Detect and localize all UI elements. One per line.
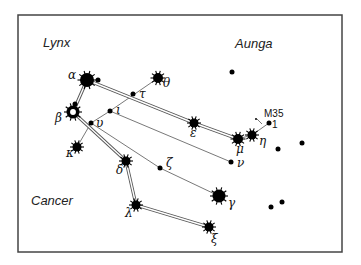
star-label-delta: δ bbox=[116, 163, 123, 177]
star-label-mu: μ bbox=[236, 142, 244, 156]
star-label-upsilon: υ bbox=[96, 116, 103, 130]
star-chart: Lynx Aunga Cancer M35 θταιβυκδζεμη1νγλξ bbox=[0, 0, 361, 265]
star-label-theta: θ bbox=[163, 76, 171, 90]
star-label-iota: ι bbox=[116, 103, 121, 117]
star-alpha-companion bbox=[96, 78, 101, 83]
star-eta bbox=[245, 128, 259, 141]
star-label-zeta: ζ bbox=[166, 156, 174, 170]
star-label-beta: β bbox=[54, 111, 62, 125]
star-one bbox=[267, 121, 272, 126]
star-label-tau: τ bbox=[139, 87, 146, 101]
star-field-3 bbox=[300, 141, 305, 146]
star-label-alpha: α bbox=[68, 68, 76, 82]
star-label-kappa: κ bbox=[65, 146, 74, 160]
star-upsilon bbox=[89, 121, 94, 126]
star-zeta bbox=[158, 166, 163, 171]
star-gamma bbox=[210, 187, 228, 204]
star-nu bbox=[229, 160, 234, 165]
star-iota bbox=[108, 109, 113, 114]
constellation-label-aunga: Aunga bbox=[234, 36, 273, 51]
star-label-gamma: γ bbox=[228, 196, 236, 210]
constellation-label-cancer: Cancer bbox=[31, 193, 74, 208]
constellation-label-lynx: Lynx bbox=[43, 35, 71, 50]
constellation-line bbox=[257, 119, 262, 124]
stars bbox=[64, 70, 305, 234]
star-alpha bbox=[78, 71, 97, 89]
star-tau bbox=[131, 92, 136, 97]
star-label-nu: ν bbox=[237, 156, 244, 170]
cluster-label-m35: M35 bbox=[264, 108, 284, 119]
star-field-5 bbox=[280, 200, 285, 205]
star-field-2 bbox=[276, 147, 281, 152]
constellation-line bbox=[160, 168, 219, 196]
star-label-lambda: λ bbox=[124, 206, 133, 220]
star-label-eta: η bbox=[259, 134, 267, 148]
star-field-4 bbox=[269, 205, 274, 210]
star-label-epsilon: ε bbox=[190, 126, 196, 140]
star-field-1 bbox=[230, 70, 235, 75]
star-label-xi: ξ bbox=[211, 232, 219, 246]
chart-frame bbox=[18, 15, 342, 252]
star-label-one: 1 bbox=[272, 119, 278, 130]
cluster-m35-marker bbox=[255, 118, 257, 120]
labels: Lynx Aunga Cancer M35 θταιβυκδζεμη1νγλξ bbox=[31, 35, 284, 246]
